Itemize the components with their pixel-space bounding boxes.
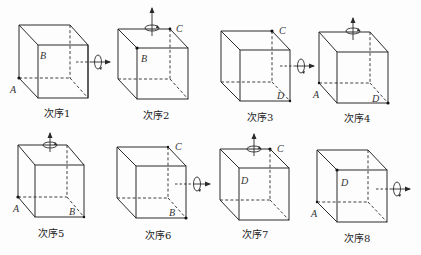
caption: 次序2 (143, 109, 169, 121)
vertex-label-a: A (12, 203, 20, 214)
vertex-b-marker (135, 46, 138, 49)
horizontal-rotation-axis-icon (175, 177, 210, 192)
vertex-label-d: D (340, 177, 349, 188)
caption: 次序3 (247, 111, 273, 123)
vertex-label-a: A (312, 89, 320, 100)
cube-8: D A 次序8 (310, 150, 410, 244)
horizontal-rotation-axis-icon (376, 182, 410, 197)
vertex-c-marker (167, 146, 169, 148)
caption: 次序4 (344, 112, 370, 124)
horizontal-rotation-axis-icon (280, 59, 314, 74)
vertex-label-b: B (69, 206, 75, 217)
horizontal-rotation-axis-icon (76, 55, 110, 70)
vertex-label-d: D (371, 93, 380, 104)
vertical-rotation-axis-icon (346, 18, 360, 40)
vertical-rotation-axis-icon (145, 8, 159, 36)
vertex-c-marker (268, 147, 271, 150)
caption: 次序1 (44, 107, 70, 119)
vertex-label-c: C (176, 23, 183, 34)
vertex-a-marker (17, 76, 20, 79)
vertex-label-d: D (240, 175, 249, 186)
vertex-label-b: B (169, 207, 175, 218)
vertex-d-marker (335, 168, 338, 171)
vertex-label-a: A (9, 84, 17, 95)
vertex-b-marker (184, 216, 187, 219)
vertex-c-marker (169, 28, 172, 31)
vertex-label-d: D (276, 90, 285, 101)
vertical-rotation-axis-icon (247, 134, 261, 156)
caption: 次序6 (145, 229, 171, 241)
vertex-label-b: B (141, 53, 147, 64)
vertex-c-marker (270, 29, 273, 32)
vertex-a-marker (16, 195, 19, 198)
cube-2: B C 次序2 (118, 8, 188, 121)
cube-7: C D 次序7 (220, 134, 289, 240)
cube-6: C B 次序6 (117, 141, 210, 241)
cube-1: A B 次序1 (9, 25, 110, 119)
caption: 次序8 (344, 232, 370, 244)
vertex-a-marker (318, 82, 320, 84)
vertex-a-marker (316, 201, 318, 203)
vertex-label-c: C (175, 141, 182, 152)
vertex-d-marker (386, 101, 389, 104)
caption: 次序7 (242, 228, 268, 240)
vertex-d-marker (289, 100, 291, 102)
cube-4: A D 次序4 (312, 18, 390, 124)
vertex-label-a: A (310, 208, 318, 219)
vertical-rotation-axis-icon (43, 133, 57, 152)
cube-3: C D 次序3 (221, 25, 314, 123)
vertex-label-c: C (277, 143, 284, 154)
caption: 次序5 (38, 227, 64, 239)
vertex-b-marker (83, 216, 85, 218)
cube-5: A B 次序5 (12, 133, 85, 239)
vertex-label-c: C (279, 25, 286, 36)
vertex-label-b: B (40, 50, 46, 61)
cube-rotation-figure: A B 次序1 B C 次序2 (0, 0, 421, 255)
